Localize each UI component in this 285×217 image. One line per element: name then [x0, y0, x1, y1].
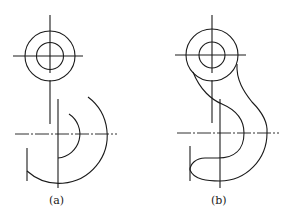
figure-a	[13, 15, 117, 188]
hook-drawing-canvas	[0, 0, 285, 217]
figure-b	[175, 15, 279, 188]
figure-b-tip-arc	[190, 170, 220, 181]
figure-a-caption: (a)	[49, 194, 64, 207]
figure-b-inner-curve	[190, 72, 244, 170]
figure-a-inner-arc	[58, 114, 80, 158]
figure-a-outer-arc	[27, 97, 107, 183]
figure-b-outer-connecting-curve	[237, 64, 267, 133]
figure-b-caption: (b)	[211, 194, 227, 207]
